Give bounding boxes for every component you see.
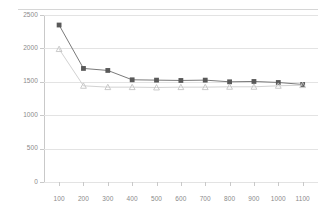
chart-container: 05001000150020002500 1002003004005006007… xyxy=(0,0,326,219)
data-point-marker xyxy=(154,78,159,83)
data-point-marker xyxy=(81,66,86,71)
data-series-layer xyxy=(0,0,326,219)
data-point-marker xyxy=(130,77,135,82)
series-1-line xyxy=(59,25,303,84)
data-point-marker xyxy=(178,78,183,83)
data-point-marker xyxy=(57,23,62,28)
series-2-group xyxy=(56,46,305,90)
series-1-group xyxy=(57,23,305,87)
data-point-marker xyxy=(105,68,110,73)
data-point-marker xyxy=(56,46,62,51)
data-point-marker xyxy=(203,78,208,83)
